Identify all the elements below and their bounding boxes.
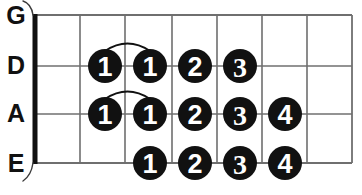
note-finger-label: 1 (142, 52, 157, 82)
fretboard-diagram: G D A E 1 1 2 3 (0, 0, 362, 195)
slide-arc-d-string (105, 44, 150, 52)
note-marker[interactable]: 2 (178, 49, 212, 83)
note-finger-label: 3 (233, 52, 247, 83)
board-outline (35, 15, 352, 163)
note-marker[interactable]: 1 (88, 97, 122, 131)
slide-arc-a-string (105, 92, 150, 100)
note-finger-label: 1 (142, 149, 157, 179)
nut-tail-bottom-icon (23, 163, 33, 181)
note-marker[interactable]: 1 (133, 146, 167, 180)
note-marker[interactable]: 1 (133, 49, 167, 83)
note-marker[interactable]: 2 (178, 97, 212, 131)
note-finger-label: 1 (97, 100, 112, 130)
note-markers-a-string: 1 1 2 3 4 (88, 97, 302, 131)
note-marker[interactable]: 4 (268, 146, 302, 180)
note-finger-label: 1 (142, 100, 157, 130)
note-marker[interactable]: 3 (223, 146, 257, 180)
fret-lines (80, 15, 307, 163)
note-marker[interactable]: 1 (133, 97, 167, 131)
fretboard-svg: G D A E 1 1 2 3 (0, 0, 362, 195)
string-label-d: D (7, 51, 25, 79)
note-finger-label: 3 (233, 149, 247, 180)
note-marker[interactable]: 4 (268, 97, 302, 131)
string-labels: G D A E (6, 1, 25, 177)
note-marker[interactable]: 3 (223, 97, 257, 131)
note-finger-label: 4 (277, 100, 292, 130)
note-finger-label: 4 (277, 149, 292, 179)
string-label-a: A (7, 99, 25, 127)
string-label-g: G (6, 1, 25, 29)
note-finger-label: 2 (187, 149, 202, 179)
note-finger-label: 1 (97, 52, 112, 82)
string-label-e: E (8, 149, 25, 177)
note-finger-label: 2 (187, 52, 202, 82)
note-finger-label: 3 (233, 100, 247, 131)
note-finger-label: 2 (187, 100, 202, 130)
note-marker[interactable]: 1 (88, 49, 122, 83)
note-marker[interactable]: 3 (223, 49, 257, 83)
note-marker[interactable]: 2 (178, 146, 212, 180)
